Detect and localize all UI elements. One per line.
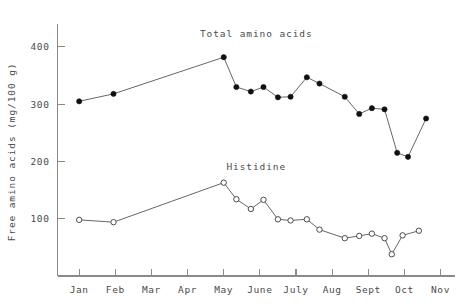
data-point (248, 206, 253, 211)
x-tick-label: Nov (431, 284, 450, 295)
data-point (317, 81, 322, 86)
data-point (357, 111, 362, 116)
data-point (221, 180, 226, 185)
data-point (357, 233, 362, 238)
data-point (261, 197, 266, 202)
data-point (248, 89, 253, 94)
series-layer (76, 55, 428, 257)
x-tick-label: June (247, 284, 272, 295)
data-point (275, 95, 280, 100)
y-tick-label: 100 (31, 213, 50, 224)
data-point (77, 99, 82, 104)
data-point (416, 228, 421, 233)
y-axis-title-group: Free amino acids (mg/100 g) (6, 63, 17, 242)
data-point (275, 217, 280, 222)
x-tick-label: Sept (356, 284, 381, 295)
x-axis-ticks: JanFebMarAprMayJuneJulyAugSeptOctNov (70, 269, 450, 295)
amino-acid-seasonal-line-chart: Free amino acids (mg/100 g) 400300200100… (0, 0, 465, 308)
y-axis-title: Free amino acids (mg/100 g) (6, 63, 17, 242)
data-point (382, 236, 387, 241)
total-amino-acids-label: Total amino acids (200, 28, 313, 39)
series-polyline (79, 183, 419, 255)
data-point (234, 84, 239, 89)
data-point (423, 116, 428, 121)
data-point (288, 218, 293, 223)
chart-container: Free amino acids (mg/100 g) 400300200100… (0, 0, 465, 308)
x-tick-label: Jan (70, 284, 89, 295)
data-point (369, 231, 374, 236)
data-point (342, 94, 347, 99)
annotation-layer: Total amino acidsHistidine (200, 28, 313, 172)
x-tick-label: Mar (142, 284, 161, 295)
x-tick-label: Apr (178, 284, 197, 295)
y-tick-label: 300 (31, 99, 50, 110)
data-point (389, 252, 394, 257)
x-tick-label: May (214, 284, 233, 295)
x-tick-label: Feb (106, 284, 125, 295)
data-point (382, 107, 387, 112)
data-point (221, 55, 226, 60)
data-point (342, 236, 347, 241)
y-tick-label: 400 (31, 41, 50, 52)
series-total-amino-acids (77, 55, 429, 160)
x-tick-label: Oct (395, 284, 414, 295)
x-tick-label: Aug (323, 284, 342, 295)
data-point (395, 150, 400, 155)
data-point (111, 219, 116, 224)
data-point (317, 227, 322, 232)
data-point (304, 217, 309, 222)
data-point (234, 197, 239, 202)
data-point (261, 84, 266, 89)
data-point (400, 233, 405, 238)
data-point (304, 75, 309, 80)
data-point (76, 217, 81, 222)
y-axis-ticks: 400300200100 (31, 41, 65, 224)
data-point (288, 94, 293, 99)
data-point (111, 91, 116, 96)
data-point (405, 154, 410, 159)
series-histidine (76, 180, 421, 257)
y-tick-label: 200 (31, 156, 50, 167)
x-tick-label: July (283, 284, 308, 295)
data-point (369, 106, 374, 111)
histidine-label: Histidine (226, 161, 286, 172)
